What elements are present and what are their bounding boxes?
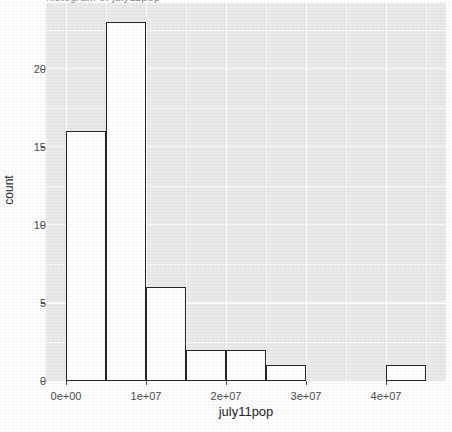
x-tick-mark: [306, 381, 307, 385]
histogram-chart: histogram of july11pop 05101520 0e+001e+…: [0, 0, 452, 432]
y-axis-title: count: [0, 0, 18, 380]
x-axis-title: july11pop: [46, 404, 446, 419]
y-axis-title-label: count: [2, 175, 16, 204]
x-tick-mark: [386, 381, 387, 385]
x-tick-label: 1e+07: [116, 390, 176, 402]
x-tick-label: 3e+07: [276, 390, 336, 402]
x-axis-ticks: 0e+001e+072e+073e+074e+07: [0, 0, 452, 432]
x-tick-mark: [226, 381, 227, 385]
x-tick-label: 4e+07: [356, 390, 416, 402]
x-tick-label: 2e+07: [196, 390, 256, 402]
x-tick-label: 0e+00: [36, 390, 96, 402]
x-tick-mark: [66, 381, 67, 385]
x-tick-mark: [146, 381, 147, 385]
